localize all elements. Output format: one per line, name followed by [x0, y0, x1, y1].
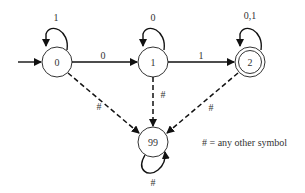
transition-2-2-label: 0,1: [244, 10, 257, 21]
state-1-label: 1: [151, 57, 156, 68]
state-99-label: 99: [148, 137, 158, 148]
transition-1-1-label: 0: [151, 12, 156, 23]
state-1: 1: [138, 47, 168, 77]
legend-text: # = any other symbol: [202, 137, 287, 148]
state-2-label: 2: [248, 57, 253, 68]
transition-0-1-label: 0: [101, 50, 106, 61]
transition-0-99: [68, 73, 139, 133]
transition-1-2-label: 1: [199, 50, 204, 61]
state-0-label: 0: [55, 57, 60, 68]
transition-0-99-label: #: [97, 101, 102, 112]
transition-2-99-label: #: [209, 102, 214, 113]
state-2-accepting: 2: [235, 47, 265, 77]
transition-0-0-label: 1: [54, 12, 59, 23]
transition-99-99-label: #: [151, 177, 156, 188]
state-0: 0: [42, 47, 72, 77]
state-99: 99: [138, 127, 168, 157]
transition-2-99: [167, 73, 238, 133]
fsa-diagram: 0 1 2 99 1 0 0 1 0,1 # # # # # = any oth…: [0, 0, 305, 193]
transition-1-99-label: #: [161, 89, 166, 100]
